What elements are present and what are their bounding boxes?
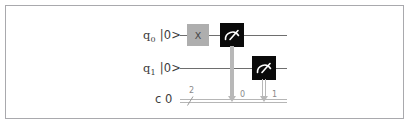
qubit-0-name: q (143, 28, 151, 42)
meter-icon (254, 58, 274, 78)
quantum-circuit-diagram: q0 |0> q1 |0> c 0 2 X 0 1 (0, 0, 411, 128)
gate-x-label: X (195, 30, 202, 41)
gate-measure-q1[interactable] (252, 56, 276, 80)
qubit-0-state: |0> (160, 28, 181, 42)
classical-register-label: c 0 (155, 92, 172, 106)
qubit-1-label: q1 |0> (143, 61, 181, 77)
measure-arrow-1-icon (260, 96, 268, 102)
qubit-1-index: 1 (151, 68, 156, 77)
classical-bus-width-label: 2 (189, 86, 194, 95)
measure-arrow-0-icon (228, 96, 236, 102)
classical-bus-slash-icon (186, 96, 195, 106)
qubit-0-label: q0 |0> (143, 28, 181, 44)
gate-measure-q0[interactable] (220, 23, 244, 47)
measure-target-index-0: 0 (240, 90, 245, 99)
measure-target-index-1: 1 (272, 90, 277, 99)
measure-connector-0 (230, 46, 234, 98)
qubit-0-index: 0 (151, 35, 156, 44)
gate-x[interactable]: X (187, 24, 209, 46)
meter-icon (222, 25, 242, 45)
qubit-1-name: q (143, 61, 151, 75)
qubit-1-state: |0> (160, 61, 181, 75)
